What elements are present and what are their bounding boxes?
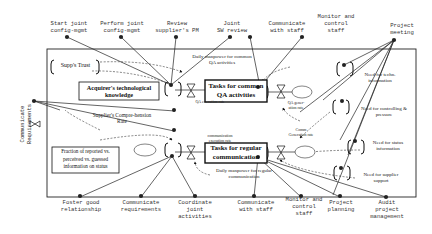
ext-review-supplier-pm: Review supplier's PM — [152, 21, 202, 35]
ext-audit-pm: Audit project management — [364, 200, 410, 220]
tasks-comm-label: Tasks for regular communication — [206, 144, 266, 161]
ext-communicate-requirements: Communicate requirements — [114, 200, 168, 214]
supps-trust-label: Supp's Trust — [55, 62, 96, 68]
fraction-reported-label: Fraction of reported vs. perceived vs. g… — [53, 148, 118, 171]
ext-foster-relationship: Foster good relationship — [54, 200, 108, 214]
need-supplier-support-label: Need for supplier support — [356, 172, 406, 184]
need-status-info-label: Need for status information — [366, 140, 410, 152]
qa-execution-valve — [187, 84, 195, 97]
ext-project-planning: Project planning — [321, 200, 361, 214]
qa-generation-valve — [277, 85, 285, 98]
ext-coordinate-joint: Coordinate joint activities — [172, 200, 218, 220]
ext-monitor-control-top: Monitor and control staff — [312, 14, 360, 34]
ext-start-joint-config: Start joint config-mgmt — [45, 21, 93, 35]
ext-joint-sw-review: Joint SW review — [212, 21, 252, 35]
comm-generation-valve — [277, 146, 285, 159]
cloud-qa-sink — [292, 86, 312, 98]
ext-project-meeting: Project meeting — [380, 23, 424, 37]
left-ext-label-1: Communicate — [19, 106, 26, 143]
ext-perform-joint-config: Perform joint config-mgmt — [96, 21, 148, 35]
comm-execution-valve — [187, 146, 195, 159]
qa-execution-label: QA execution rate — [186, 100, 234, 105]
daily-manpower-comm-label: Daily manpower for regular communication — [212, 168, 276, 180]
comm-generation-label: Comm Generation rate — [288, 128, 314, 137]
qa-generation-label: QA gener-ation rate — [285, 101, 307, 110]
ext-communicate-staff-bottom: Communicate with staff — [230, 200, 282, 214]
supplier-comprehension-label: Supplier's Compre-hension Rate — [92, 112, 152, 124]
daily-manpower-qa-label: Daily manpower for common QA activities — [190, 54, 254, 66]
cloud-comm-sink — [295, 146, 315, 158]
ext-communicate-staff-top: Communicate with staff — [262, 21, 312, 35]
acquirer-knowledge-label: Acquirer's technological knowledge — [80, 84, 158, 99]
comm-execution-label: communication execution rate — [200, 134, 240, 143]
cloud-comm-source — [134, 144, 156, 156]
need-techn-info-label: Need for techn. information — [358, 72, 402, 84]
tasks-qa-label: Tasks for common QA activities — [206, 82, 266, 99]
left-ext-label-2: Requirements — [26, 104, 33, 144]
need-controlling-label: Need for controlling & pressure — [358, 106, 410, 118]
